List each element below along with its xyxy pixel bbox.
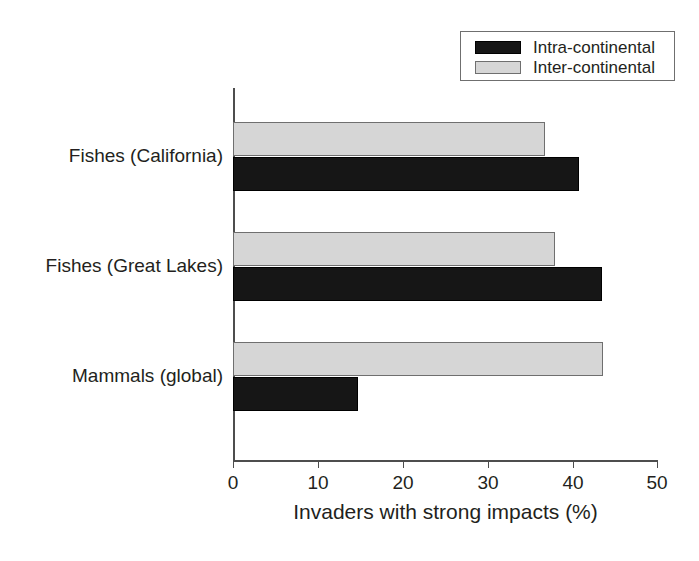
x-tick-label-10: 10 <box>307 472 328 494</box>
legend-label-intra-continental: Intra-continental <box>533 39 655 56</box>
legend-item-intra-continental: Intra-continental <box>475 37 674 57</box>
x-axis-line <box>233 460 658 462</box>
x-axis-title: Invaders with strong impacts (%) <box>233 500 658 524</box>
plot-area: 0 10 20 30 40 50 <box>233 88 658 460</box>
y-axis-label-mammals-global: Mammals (global) <box>72 365 223 387</box>
x-tick-label-20: 20 <box>392 472 413 494</box>
x-tick-20 <box>403 460 404 468</box>
bar-fishes-great-lakes-inter-continental <box>233 232 555 266</box>
x-tick-label-0: 0 <box>228 472 239 494</box>
x-tick-0 <box>233 460 234 468</box>
x-tick-40 <box>573 460 574 468</box>
legend-swatch-inter-continental <box>475 61 521 74</box>
bar-fishes-great-lakes-intra-continental <box>233 267 602 301</box>
bar-fishes-california-intra-continental <box>233 157 579 191</box>
bar-fishes-california-inter-continental <box>233 122 545 156</box>
x-tick-50 <box>657 460 658 468</box>
bar-chart-figure: Intra-continental Inter-continental Fish… <box>0 0 699 561</box>
y-axis-label-fishes-california: Fishes (California) <box>69 145 223 167</box>
x-tick-label-50: 50 <box>646 472 667 494</box>
x-tick-label-40: 40 <box>562 472 583 494</box>
x-tick-30 <box>488 460 489 468</box>
y-axis-labels: Fishes (California) Fishes (Great Lakes)… <box>0 88 223 460</box>
x-tick-label-30: 30 <box>477 472 498 494</box>
y-axis-label-fishes-great-lakes: Fishes (Great Lakes) <box>46 255 223 277</box>
legend-item-inter-continental: Inter-continental <box>475 57 674 77</box>
bar-mammals-global-intra-continental <box>233 377 358 411</box>
legend-swatch-intra-continental <box>475 41 521 54</box>
legend-label-inter-continental: Inter-continental <box>533 59 655 76</box>
chart-legend: Intra-continental Inter-continental <box>460 31 675 81</box>
x-tick-10 <box>318 460 319 468</box>
bar-mammals-global-inter-continental <box>233 342 603 376</box>
